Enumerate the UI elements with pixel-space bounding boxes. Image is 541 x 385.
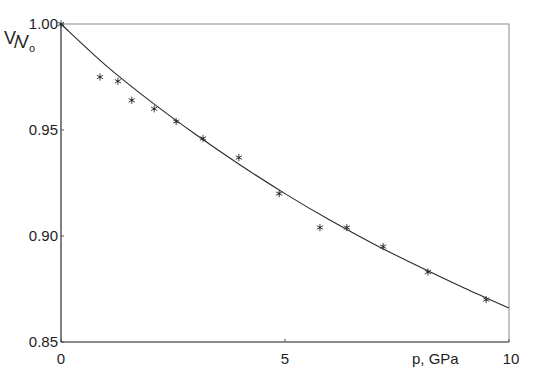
y-label-denominator: V	[17, 32, 29, 52]
data-point-asterisk-icon	[380, 243, 386, 250]
y-label-numerator: V	[4, 28, 16, 48]
chart-canvas	[0, 0, 541, 385]
data-point-asterisk-icon	[115, 78, 121, 85]
plot-frame	[61, 24, 509, 342]
axis-ticks	[61, 24, 509, 342]
x-tick-label: 5	[281, 351, 289, 366]
x-tick-label: 0	[57, 351, 65, 366]
data-point-asterisk-icon	[97, 73, 103, 80]
y-tick-label: 0.90	[29, 228, 58, 243]
data-point-asterisk-icon	[317, 224, 323, 231]
y-axis-label: V/Vo	[4, 32, 35, 53]
y-tick-label: 0.85	[29, 334, 58, 349]
x-axis-label: p, GPa	[412, 351, 459, 366]
y-tick-label: 1.00	[29, 16, 58, 31]
data-point-asterisk-icon	[236, 154, 242, 161]
data-markers	[58, 20, 489, 303]
data-point-asterisk-icon	[344, 224, 350, 231]
data-point-asterisk-icon	[129, 97, 135, 104]
y-tick-label: 0.95	[29, 122, 58, 137]
fit-curve	[61, 24, 509, 308]
x-tick-label: 10	[503, 351, 520, 366]
y-label-subscript: o	[29, 42, 35, 54]
